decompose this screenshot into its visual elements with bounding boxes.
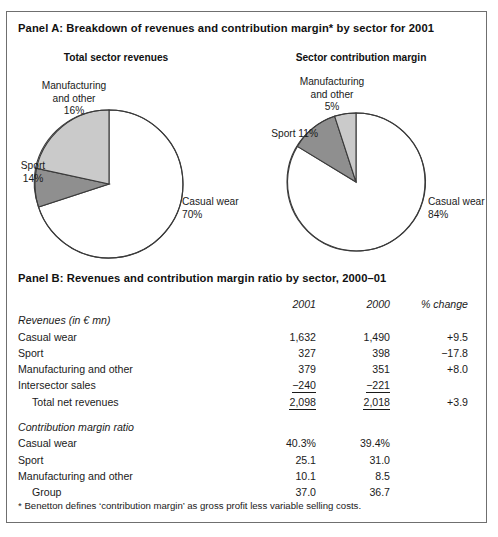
table-cell-2001: 40.3% — [254, 437, 316, 449]
table-row-label: Casual wear — [18, 437, 77, 449]
table-row: Sport327398−17.8 — [18, 347, 470, 363]
table-cell-2001: 10.1 — [254, 470, 316, 482]
chart-right-title: Sector contribution margin — [286, 52, 436, 63]
table-cell-2000: 398 — [328, 347, 390, 359]
revenues-rows: Casual wear1,6321,490+9.5Sport327398−17.… — [18, 331, 470, 412]
table-row: Casual wear40.3%39.4% — [18, 437, 470, 453]
table-cell-2000: 1,490 — [328, 331, 390, 343]
column-header-2001: 2001 — [254, 298, 316, 310]
table-row: Sport25.131.0 — [18, 454, 470, 470]
table-cell-change: +8.0 — [400, 363, 468, 375]
table-row-label: Group — [32, 486, 61, 498]
table-row-label: Total net revenues — [32, 396, 119, 408]
pie-label-manufacturing-right: Manufacturing and other 5% — [276, 76, 388, 114]
table-row-label: Manufacturing and other — [18, 363, 133, 375]
pie-label-casual-wear-left: Casual wear 70% — [182, 196, 266, 221]
table-cell-2001: 2,098 — [254, 396, 316, 408]
underlined-value: −240 — [292, 379, 316, 393]
column-header-2000: 2000 — [328, 298, 390, 310]
table-cell-2000: 36.7 — [328, 486, 390, 498]
table-row: Casual wear1,6321,490+9.5 — [18, 331, 470, 347]
scan-artifact-top — [96, 0, 396, 4]
table-cell-change: +9.5 — [400, 331, 468, 343]
table-row-label: Casual wear — [18, 331, 77, 343]
underlined-value: 2,018 — [363, 396, 390, 410]
chart-left-title: Total sector revenues — [48, 52, 184, 63]
section-title-label: Contribution margin ratio — [18, 421, 134, 433]
table-header-row: 2001 2000 % change — [18, 298, 470, 314]
column-header-change: % change — [400, 298, 468, 310]
table-cell-2000: 39.4% — [328, 437, 390, 449]
table-row-label: Manufacturing and other — [18, 470, 133, 482]
section-title-contribution-margin-ratio: Contribution margin ratio — [18, 421, 470, 437]
table-cell-2000: 31.0 — [328, 454, 390, 466]
table-cell-2000: 2,018 — [328, 396, 390, 408]
table-row-label: Intersector sales — [18, 379, 96, 391]
underlined-value: 2,098 — [289, 396, 316, 410]
panel-b-table: 2001 2000 % change Revenues (in € mn) Ca… — [18, 298, 470, 503]
pie-label-sport-right: Sport 11% — [252, 128, 318, 141]
table-spacer — [18, 412, 470, 421]
table-cell-2001: −240 — [254, 379, 316, 391]
table-cell-2001: 1,632 — [254, 331, 316, 343]
table-cell-change: +3.9 — [400, 396, 468, 408]
table-row: Intersector sales−240−221 — [18, 379, 470, 395]
table-cell-2000: 351 — [328, 363, 390, 375]
panel-a-title: Panel A: Breakdown of revenues and contr… — [18, 22, 434, 34]
table-cell-2001: 37.0 — [254, 486, 316, 498]
table-row: Total net revenues2,0982,018+3.9 — [18, 396, 470, 412]
section-title-revenues: Revenues (in € mn) — [18, 314, 470, 330]
footnote: * Benetton defines ‘contribution margin’… — [18, 500, 361, 511]
pie-label-manufacturing-left: Manufacturing and other 16% — [18, 80, 130, 118]
table-row: Manufacturing and other10.18.5 — [18, 470, 470, 486]
underlined-value: −221 — [366, 379, 390, 393]
section-title-label: Revenues (in € mn) — [18, 314, 110, 326]
table-row-label: Sport — [18, 454, 43, 466]
table-cell-2001: 327 — [254, 347, 316, 359]
figure-root: Panel A: Breakdown of revenues and contr… — [0, 0, 498, 537]
table-cell-2001: 379 — [254, 363, 316, 375]
pie-label-sport-left: Sport 14% — [4, 160, 62, 185]
table-row: Manufacturing and other379351+8.0 — [18, 363, 470, 379]
table-row-label: Sport — [18, 347, 43, 359]
contribution-margin-rows: Casual wear40.3%39.4%Sport25.131.0Manufa… — [18, 437, 470, 502]
table-cell-change: −17.8 — [400, 347, 468, 359]
pie-label-casual-wear-right: Casual wear 84% — [428, 196, 494, 221]
table-cell-2000: −221 — [328, 379, 390, 391]
table-cell-2001: 25.1 — [254, 454, 316, 466]
table-cell-2000: 8.5 — [328, 470, 390, 482]
panel-b-title: Panel B: Revenues and contribution margi… — [18, 272, 386, 284]
